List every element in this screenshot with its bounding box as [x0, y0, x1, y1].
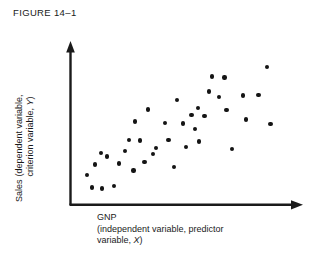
arrow-right-icon: [291, 200, 303, 209]
x-axis-label-line1: GNP: [97, 212, 224, 224]
y-axis-label: Sales (dependent variable, criterion var…: [14, 62, 35, 202]
y-axis-label-primary: Sales: [14, 179, 25, 202]
x-axis-variable-symbol: X: [134, 235, 140, 245]
y-axis-label-line2-text: criterion variable,: [25, 105, 35, 176]
figure-container: FIGURE 14–1 Sales (dependent variable, c…: [0, 0, 318, 265]
x-axis-label-line2: (independent variable, predictor: [97, 224, 224, 236]
x-axis-label-line3: variable, X): [97, 235, 224, 247]
x-axis-label: GNP (independent variable, predictor var…: [97, 212, 224, 247]
arrow-up-icon: [66, 41, 75, 53]
y-axis-label-sub: (dependent variable, criterion variable,…: [14, 94, 35, 176]
y-axis-variable-symbol: Y: [25, 99, 35, 105]
y-axis-label-line1: (dependent variable,: [14, 94, 25, 176]
y-axis-label-line2: criterion variable, Y): [25, 94, 36, 176]
x-axis-label-line3-text: variable,: [97, 235, 134, 245]
